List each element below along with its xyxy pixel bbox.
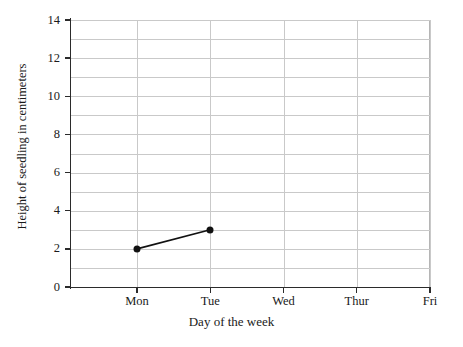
series-line — [0, 0, 463, 347]
y-axis-title: Height of seedling in centimeters — [16, 37, 29, 257]
line-chart: 02468101214 MonTueWedThurFri Height of s… — [0, 0, 463, 347]
x-axis-title: Day of the week — [0, 315, 463, 329]
